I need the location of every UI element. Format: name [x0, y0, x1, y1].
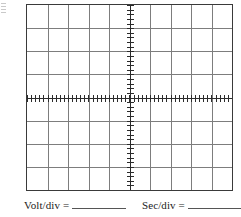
axis-tick-horizontal: [56, 95, 57, 102]
axis-tick-vertical: [127, 121, 134, 122]
scan-artifact: [1, 12, 6, 13]
volt-per-div-input[interactable]: [72, 197, 126, 209]
axis-tick-vertical: [127, 51, 134, 52]
axis-tick-horizontal: [109, 95, 110, 102]
axis-tick-horizontal: [179, 95, 180, 102]
axis-tick-vertical: [127, 37, 134, 38]
axis-tick-vertical: [127, 167, 134, 168]
axis-tick-horizontal: [101, 95, 102, 102]
gridline-vertical: [212, 5, 213, 190]
axis-tick-vertical: [127, 42, 134, 43]
horizontal-axis: [27, 98, 232, 99]
gridline-horizontal: [27, 74, 232, 75]
axis-tick-vertical: [127, 61, 134, 62]
axis-tick-vertical: [127, 172, 134, 173]
axis-tick-horizontal: [146, 95, 147, 102]
axis-tick-horizontal: [31, 95, 32, 102]
vertical-axis: [130, 5, 131, 190]
axis-tick-horizontal: [154, 95, 155, 102]
gridline-vertical: [191, 5, 192, 190]
axis-tick-horizontal: [35, 95, 36, 102]
oscilloscope-graticule: [26, 4, 233, 191]
axis-tick-horizontal: [183, 95, 184, 102]
axis-tick-horizontal: [39, 95, 40, 102]
axis-tick-vertical: [127, 102, 134, 103]
scan-artifact: [1, 9, 6, 10]
axis-tick-vertical: [127, 111, 134, 112]
axis-tick-vertical: [127, 116, 134, 117]
gridline-vertical: [150, 5, 151, 190]
scan-artifact: [1, 6, 6, 7]
axis-tick-vertical: [127, 56, 134, 57]
gridline-vertical: [89, 5, 90, 190]
axis-tick-horizontal: [121, 95, 122, 102]
axis-tick-vertical: [127, 79, 134, 80]
gridline-horizontal: [27, 28, 232, 29]
axis-tick-horizontal: [191, 95, 192, 102]
oscilloscope-worksheet: Volt/div = Sec/div =: [0, 0, 241, 217]
axis-tick-vertical: [127, 70, 134, 71]
axis-tick-vertical: [127, 65, 134, 66]
gridline-vertical: [68, 5, 69, 190]
axis-tick-horizontal: [117, 95, 118, 102]
axis-tick-horizontal: [113, 95, 114, 102]
axis-tick-horizontal: [171, 95, 172, 102]
axis-tick-horizontal: [224, 95, 225, 102]
axis-tick-vertical: [127, 47, 134, 48]
axis-tick-horizontal: [195, 95, 196, 102]
measurement-settings-row: Volt/div = Sec/div =: [0, 193, 241, 217]
axis-tick-vertical: [127, 158, 134, 159]
gridline-vertical: [109, 5, 110, 190]
axis-tick-vertical: [127, 107, 134, 108]
axis-tick-horizontal: [105, 95, 106, 102]
volt-per-div-field: Volt/div =: [24, 197, 126, 211]
axis-tick-horizontal: [166, 95, 167, 102]
axis-tick-horizontal: [207, 95, 208, 102]
sec-per-div-field: Sec/div =: [142, 197, 241, 211]
axis-tick-horizontal: [48, 95, 49, 102]
axis-tick-vertical: [127, 185, 134, 186]
scan-artifact: [1, 3, 6, 4]
axis-tick-horizontal: [134, 95, 135, 102]
axis-tick-horizontal: [72, 95, 73, 102]
axis-tick-horizontal: [27, 95, 28, 102]
axis-tick-horizontal: [175, 95, 176, 102]
axis-tick-vertical: [127, 98, 134, 99]
axis-tick-vertical: [127, 181, 134, 182]
graticule-center-axes: [27, 5, 232, 190]
gridline-vertical: [171, 5, 172, 190]
axis-tick-vertical: [127, 130, 134, 131]
axis-tick-horizontal: [97, 95, 98, 102]
axis-tick-horizontal: [211, 95, 212, 102]
axis-tick-vertical: [127, 24, 134, 25]
gridline-vertical: [48, 5, 49, 190]
axis-tick-vertical: [127, 125, 134, 126]
graticule-gridlines: [27, 5, 232, 190]
axis-tick-horizontal: [228, 95, 229, 102]
axis-tick-horizontal: [138, 95, 139, 102]
sec-per-div-label: Sec/div =: [142, 199, 185, 211]
axis-tick-horizontal: [52, 95, 53, 102]
gridline-horizontal: [27, 144, 232, 145]
axis-tick-vertical: [127, 93, 134, 94]
axis-tick-horizontal: [125, 95, 126, 102]
gridline-horizontal: [27, 51, 232, 52]
axis-tick-horizontal: [162, 95, 163, 102]
axis-tick-vertical: [127, 153, 134, 154]
axis-tick-vertical: [127, 33, 134, 34]
axis-tick-horizontal: [68, 95, 69, 102]
axis-tick-vertical: [127, 144, 134, 145]
axis-tick-horizontal: [216, 95, 217, 102]
axis-tick-vertical: [127, 176, 134, 177]
volt-per-div-label: Volt/div =: [24, 199, 69, 211]
graticule-tick-marks: [27, 5, 232, 190]
axis-tick-horizontal: [93, 95, 94, 102]
axis-tick-horizontal: [43, 95, 44, 102]
axis-tick-vertical: [127, 74, 134, 75]
axis-tick-vertical: [127, 139, 134, 140]
gridline-horizontal: [27, 121, 232, 122]
axis-tick-vertical: [127, 148, 134, 149]
axis-tick-horizontal: [220, 95, 221, 102]
axis-tick-vertical: [127, 84, 134, 85]
sec-per-div-input[interactable]: [188, 197, 241, 209]
